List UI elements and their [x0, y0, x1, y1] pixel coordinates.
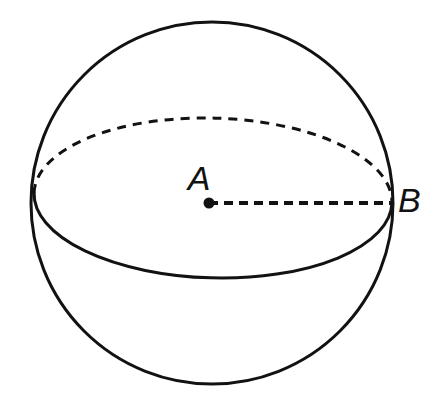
sphere-diagram-svg: A B — [0, 0, 435, 403]
label-point-b: B — [398, 181, 421, 219]
sphere-diagram-canvas: A B — [0, 0, 435, 403]
center-point-dot — [204, 198, 215, 209]
label-point-a: A — [186, 159, 211, 197]
equator-back-half-dashed — [34, 118, 392, 203]
